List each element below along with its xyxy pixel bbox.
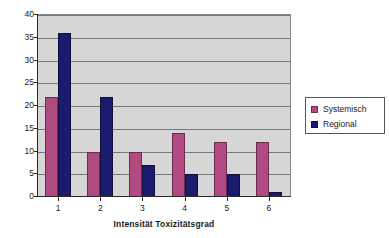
legend-entry-systemisch: Systemisch (311, 102, 380, 116)
y-axis-tick-mark (34, 82, 37, 83)
y-axis-tick-label: 35 (14, 33, 34, 42)
bar-systemisch-2 (87, 152, 100, 198)
x-axis-tick-mark (100, 197, 101, 201)
gridline (37, 83, 290, 84)
bar-regional-2 (100, 97, 113, 197)
y-axis-tick-mark (34, 173, 37, 174)
y-axis-tick-labels: 0510152025303540 (14, 14, 34, 196)
y-axis-tick-label: 25 (14, 78, 34, 87)
bar-regional-1 (58, 33, 71, 197)
y-axis-tick-mark (34, 14, 37, 15)
x-axis-tick-mark (185, 197, 186, 201)
y-axis-tick-label: 30 (14, 56, 34, 65)
x-axis-tick-label: 5 (217, 203, 237, 213)
y-axis-tick-label: 40 (14, 10, 34, 19)
chart-legend: Systemisch Regional (305, 97, 385, 134)
y-axis-tick-mark (34, 105, 37, 106)
gridline (37, 174, 290, 175)
y-axis-tick-label: 5 (14, 169, 34, 178)
bar-regional-3 (142, 165, 155, 197)
legend-label: Regional (323, 120, 357, 129)
bar-regional-5 (227, 174, 240, 197)
legend-entry-regional: Regional (311, 117, 380, 131)
y-axis-tick-mark (34, 196, 37, 197)
x-axis-tick-label: 3 (132, 203, 152, 213)
bar-regional-4 (185, 174, 198, 197)
y-axis-tick-mark (34, 128, 37, 129)
legend-label: Systemisch (323, 105, 366, 114)
x-axis-tick-label: 1 (48, 203, 68, 213)
x-axis-tick-mark (58, 197, 59, 201)
y-axis-tick-mark (34, 60, 37, 61)
y-axis-tick-mark (34, 151, 37, 152)
y-axis-tick-mark (34, 37, 37, 38)
y-axis-tick-label: 20 (14, 101, 34, 110)
gridline (37, 152, 290, 153)
gridline (37, 61, 290, 62)
bar-systemisch-3 (129, 152, 142, 198)
legend-swatch-icon (311, 121, 318, 128)
bar-systemisch-1 (45, 97, 58, 197)
gridline (37, 129, 290, 130)
y-axis-tick-label: 0 (14, 192, 34, 201)
bar-systemisch-5 (214, 142, 227, 197)
bar-chart: Anzahl d. Patienten 0510152025303540 Int… (0, 0, 389, 238)
y-axis-line (37, 14, 38, 197)
x-axis-tick-mark (269, 197, 270, 201)
x-axis-tick-label: 4 (175, 203, 195, 213)
y-axis-tick-label: 15 (14, 124, 34, 133)
x-axis-tick-mark (227, 197, 228, 201)
x-axis-tick-mark (142, 197, 143, 201)
bar-systemisch-4 (172, 133, 185, 197)
gridline (37, 15, 290, 16)
x-axis-tick-label: 6 (259, 203, 279, 213)
x-axis-tick-label: 2 (90, 203, 110, 213)
bar-systemisch-6 (256, 142, 269, 197)
gridline (37, 38, 290, 39)
gridline (37, 106, 290, 107)
plot-area (37, 14, 291, 197)
y-axis-tick-label: 10 (14, 147, 34, 156)
legend-swatch-icon (311, 106, 318, 113)
x-axis-line (37, 196, 291, 197)
x-axis-title: Intensität Toxizitätsgrad (37, 219, 291, 229)
